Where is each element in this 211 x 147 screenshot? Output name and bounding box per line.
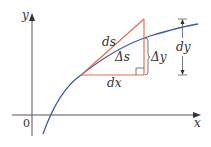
- y-axis-arrow-icon: [29, 13, 35, 21]
- origin-label: 0: [23, 117, 30, 130]
- right-angle-marker: [136, 68, 144, 75]
- x-axis: [12, 112, 201, 118]
- ds-label: ds: [102, 35, 116, 49]
- x-axis-label: x: [194, 116, 201, 130]
- dy-down-arrow-icon: [181, 70, 185, 75]
- arc-length-diagram: y x 0 ds Δs Δy dx dy: [0, 0, 211, 147]
- delta-y-bracket: [145, 38, 150, 75]
- dy-label: dy: [176, 40, 191, 54]
- delta-s-label: Δs: [114, 50, 130, 64]
- y-axis-label: y: [21, 8, 29, 22]
- dy-up-arrow-icon: [181, 19, 185, 24]
- dx-label: dx: [107, 76, 122, 90]
- delta-y-label: Δy: [150, 50, 167, 64]
